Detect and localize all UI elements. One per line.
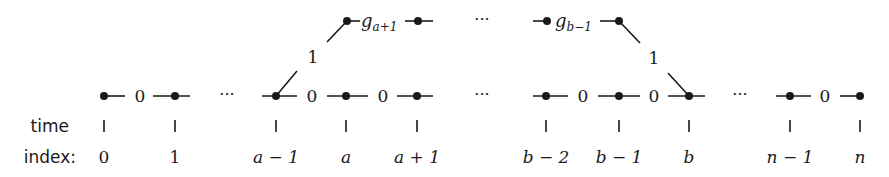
ellipsis: ··· — [474, 10, 489, 29]
index-label: b − 2 — [523, 147, 570, 167]
state-node — [856, 92, 864, 100]
edge-label: 0 — [378, 86, 389, 106]
state-node — [413, 92, 421, 100]
edge-label: 0 — [820, 86, 831, 106]
state-node — [342, 92, 350, 100]
state-node — [171, 92, 179, 100]
state-node — [615, 17, 623, 25]
index-label: n — [855, 147, 866, 167]
state-node — [343, 17, 351, 25]
down-transition-lower — [668, 73, 689, 96]
g-label-b1: gb−1 — [555, 10, 592, 34]
state-node — [414, 17, 422, 25]
transition-label-down: 1 — [649, 48, 660, 68]
up-transition-lower — [276, 71, 297, 96]
index-label: 1 — [170, 147, 181, 167]
index-label: a + 1 — [394, 147, 440, 167]
down-transition-upper — [619, 21, 640, 43]
state-node — [685, 92, 693, 100]
edge-label: 0 — [135, 86, 146, 106]
index-label: n − 1 — [767, 147, 814, 167]
state-diagram: 0 0 0 0 0 0 ··· ··· ··· ··· 1 1 ga+1 gb−… — [0, 0, 889, 177]
index-row-label: index: — [24, 147, 76, 167]
state-node — [272, 92, 280, 100]
state-node — [786, 92, 794, 100]
state-node — [100, 92, 108, 100]
index-label: b − 1 — [596, 147, 643, 167]
transition-label-up: 1 — [308, 47, 319, 67]
ellipsis: ··· — [732, 85, 747, 104]
edge-label: 0 — [578, 86, 589, 106]
index-label: 0 — [99, 147, 110, 167]
index-label: a — [341, 147, 351, 167]
g-label-a1: ga+1 — [361, 10, 397, 34]
edge-label: 0 — [649, 86, 660, 106]
index-label: b — [684, 147, 695, 167]
ellipsis: ··· — [474, 85, 489, 104]
edge-label: 0 — [307, 86, 318, 106]
time-row-label: time — [31, 116, 69, 136]
up-transition-upper — [327, 21, 347, 42]
index-label: a − 1 — [253, 147, 299, 167]
ellipsis: ··· — [219, 85, 234, 104]
state-node — [543, 17, 551, 25]
state-node — [615, 92, 623, 100]
state-node — [542, 92, 550, 100]
